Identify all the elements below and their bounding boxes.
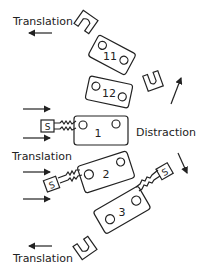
block-12-label: 12 (102, 87, 116, 100)
distraction-arrow-up-icon (171, 78, 181, 104)
screw-2: S (43, 170, 82, 192)
hook-top-icon (74, 10, 98, 33)
block-2: 2 (77, 151, 135, 194)
block-3: 3 (93, 186, 151, 235)
screw-3: S (136, 163, 173, 191)
block-11: 11 (88, 35, 136, 76)
hook-bottom-icon (73, 236, 97, 259)
translation-label-bottom: Translation (12, 252, 73, 265)
block-2-label: 2 (103, 168, 110, 181)
block-12: 12 (85, 76, 133, 109)
vertebral-distraction-diagram: Translation 11 12 1 S Distrac (0, 0, 199, 277)
translation-label-top: Translation (12, 15, 73, 28)
distraction-label: Distraction (136, 126, 196, 139)
distraction-arrow-down-icon (178, 153, 187, 173)
hook-right-icon (143, 71, 164, 92)
screw-1: S (41, 120, 76, 132)
block-3-label: 3 (119, 206, 126, 219)
screw-1-label: S (45, 122, 51, 132)
block-1: 1 (74, 116, 128, 145)
translation-label-middle: Translation (11, 150, 72, 163)
block-11-label: 11 (103, 50, 117, 63)
block-1-label: 1 (95, 127, 102, 140)
